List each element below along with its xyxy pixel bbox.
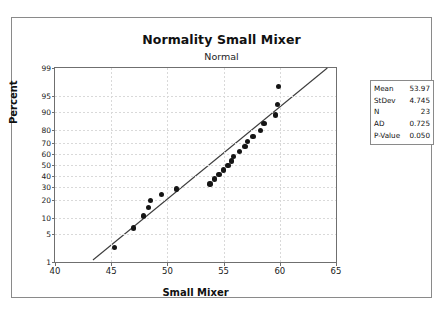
x-axis-tick-mark [224, 262, 225, 266]
y-axis-tick-mark [52, 112, 56, 113]
statistics-row: AD0.725 [374, 118, 430, 130]
statistics-row: StDev4.745 [374, 95, 430, 107]
data-point [273, 112, 278, 117]
statistics-value: 53.97 [405, 83, 430, 95]
y-axis-tick-mark [52, 176, 56, 177]
statistics-row: Mean53.97 [374, 83, 430, 95]
gridline-horizontal [55, 187, 336, 188]
data-point [207, 181, 212, 186]
data-point [212, 176, 217, 181]
y-axis-tick-mark [52, 187, 56, 188]
y-axis-tick-mark [52, 165, 56, 166]
data-point [221, 167, 226, 172]
y-axis-tick-mark [52, 218, 56, 219]
y-axis-tick-mark [52, 200, 56, 201]
data-point [174, 186, 179, 191]
gridline-horizontal [55, 130, 336, 131]
statistics-value: 0.725 [405, 118, 430, 130]
x-axis-tick-mark [55, 262, 56, 266]
statistics-value: 4.745 [405, 95, 430, 107]
y-axis-tick-mark [52, 96, 56, 97]
gridline-horizontal [55, 200, 336, 201]
statistics-label: N [374, 107, 405, 119]
statistics-label: Mean [374, 83, 405, 95]
x-axis-label: Small Mixer [54, 287, 337, 298]
gridline-horizontal [55, 143, 336, 144]
gridline-horizontal [55, 165, 336, 166]
chart-title: Normality Small Mixer [12, 32, 431, 47]
gridline-horizontal [55, 176, 336, 177]
gridline-horizontal [55, 154, 336, 155]
statistics-row: N23 [374, 107, 430, 119]
gridline-horizontal [55, 112, 336, 113]
data-point [131, 225, 136, 230]
statistics-table-body: Mean53.97StDev4.745N23AD0.725P-Value0.05… [374, 83, 430, 142]
y-axis-tick-mark [52, 130, 56, 131]
y-axis-tick-mark [52, 68, 56, 69]
statistics-label: AD [374, 118, 405, 130]
x-axis-tick-mark [111, 262, 112, 266]
chart-frame: Normality Small Mixer Normal Percent 151… [11, 17, 432, 298]
gridline-horizontal [55, 218, 336, 219]
x-axis-tick-mark [280, 262, 281, 266]
plot-area: 151020304050607080909599404550556065 [54, 67, 337, 263]
data-point [261, 121, 266, 126]
statistics-value: 0.050 [405, 130, 430, 142]
statistics-row: P-Value0.050 [374, 130, 430, 142]
x-axis-tick-mark [167, 262, 168, 266]
y-axis-tick-mark [52, 143, 56, 144]
gridline-horizontal [55, 234, 336, 235]
y-axis-label: Percent [8, 80, 19, 124]
statistics-value: 23 [405, 107, 430, 119]
chart-subtitle: Normal [12, 51, 431, 62]
statistics-label: StDev [374, 95, 405, 107]
y-axis-tick-mark [52, 234, 56, 235]
statistics-table: Mean53.97StDev4.745N23AD0.725P-Value0.05… [370, 80, 434, 145]
y-axis-tick-mark [52, 154, 56, 155]
gridline-horizontal [55, 96, 336, 97]
x-axis-tick-mark [336, 262, 337, 266]
statistics-label: P-Value [374, 130, 405, 142]
data-point [250, 134, 255, 139]
